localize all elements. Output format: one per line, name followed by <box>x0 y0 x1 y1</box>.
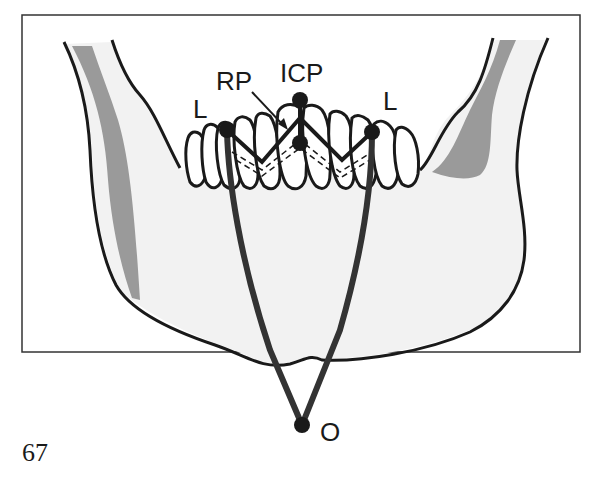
label-origin: O <box>320 419 340 445</box>
label-lateral-right: L <box>383 88 397 114</box>
origin-point <box>294 417 310 433</box>
lateral-right-point <box>364 124 380 140</box>
rp-point <box>292 135 308 151</box>
label-lateral-left: L <box>193 96 207 122</box>
lateral-left-point <box>219 122 235 138</box>
figure-number: 67 <box>22 438 48 468</box>
icp-point <box>292 92 308 108</box>
mandible-diagram: RP ICP L L O <box>0 0 594 485</box>
label-icp: ICP <box>280 60 323 86</box>
label-rp: RP <box>216 68 252 94</box>
